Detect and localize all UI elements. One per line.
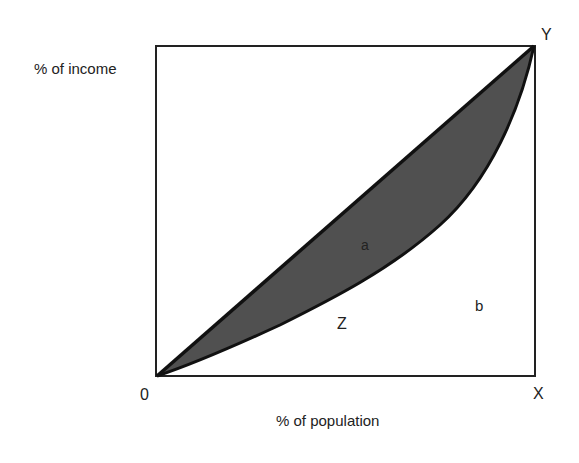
origin-label: 0	[140, 386, 149, 404]
x-axis-label: % of population	[276, 412, 379, 429]
area-b-label: b	[475, 297, 483, 314]
curve-z-label: Z	[337, 315, 347, 333]
x-corner-label: X	[533, 385, 544, 403]
area-a-label: a	[361, 237, 369, 253]
y-corner-label: Y	[541, 26, 552, 44]
y-axis-label: % of income	[34, 60, 117, 77]
